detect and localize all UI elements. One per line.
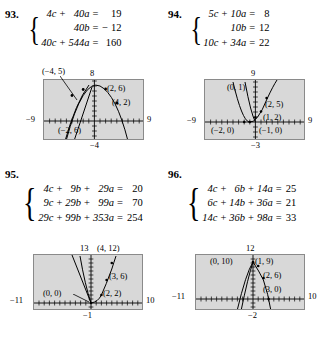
graph-96-point-label-3: (3, 0) [263,284,281,294]
equals-sign: = [115,196,125,210]
graph-93-right-label: 9 [147,114,151,124]
term-3: 99a [92,196,115,210]
graph-93-top-label: 8 [90,68,94,78]
operator-1: + [54,196,64,210]
problem-93-system: { 4c + 40a = 19 40b = − 12 40c + 544a = [26,7,122,50]
right-side: 160 [100,36,122,50]
right-side: 70 [125,196,144,210]
term-3: 98a [256,211,274,225]
term-3: 14a [256,182,274,196]
term-1: 9c [37,196,54,210]
operator-1: + [54,211,64,225]
equation-row: 9c + 29b + 99a = 70 [37,196,143,210]
term-1 [202,21,219,35]
graph-93-point-label-2: (4, 2) [112,97,130,107]
equation-row: 4c + 40a = 19 [40,7,122,21]
left-brace: { [23,182,36,225]
graph-95-point-label-1: (3, 6) [109,271,127,281]
term-3: 353a [92,211,115,225]
operator-2: + [246,196,256,210]
graph-94-point-label-4: (−1, 0) [259,125,282,135]
problem-94-system: { 5c + 10a = 8 10b = 12 10c + 34a = 22 [188,7,271,50]
term-1: 6c [201,196,218,210]
operator-2: + [246,211,256,225]
graph-95-point-label-0: (4, 12) [97,243,120,253]
graph-94-point-label-1: (2, 5) [265,99,283,109]
graph-96-top-label: 12 [246,243,255,253]
graph-94-point-label-2: (1, 2) [263,112,281,122]
operator-2: + [246,182,256,196]
problem-95-equations: 4c + 9b + 29a = 20 9c + 29b + 99a = 70 2… [37,182,143,225]
term-2: 36b [228,211,246,225]
graph-94-right-label: 9 [308,115,312,125]
equation-row: 40b = − 12 [40,21,122,35]
right-side: 12 [257,21,271,35]
term-1: 14c [201,211,218,225]
equals-sign: = [90,7,100,21]
graph-96-right-label: 10 [308,291,317,301]
problem-96-system: { 4c + 6b + 14a = 25 6c + 14b + 36a = 21 [184,182,297,225]
operator-1: + [54,182,64,196]
right-side: 20 [125,182,144,196]
right-side: 254 [125,211,144,225]
problem-94-number: 94. [168,8,182,20]
graph-93-bottom-label: −4 [90,140,99,150]
right-side: 33 [284,211,298,225]
problem-95-number: 95. [5,168,19,180]
equals-sign: = [115,182,125,196]
right-side: − 12 [100,21,122,35]
term-1: 10c [202,36,219,50]
graph-94-top-label: 9 [251,68,255,78]
graph-93-point-label-1: (2, 6) [107,83,125,93]
operator-2: + [82,182,92,196]
operator-1: + [220,7,230,21]
equation-row: 4c + 9b + 29a = 20 [37,182,143,196]
term-2: 14b [228,196,246,210]
term-2: 34a [229,36,247,50]
right-side: 22 [257,36,271,50]
term-3: 36a [256,196,274,210]
term-1: 40c [40,36,57,50]
equation-row: 10c + 34a = 22 [202,36,270,50]
operator-1 [220,21,230,35]
term-1: 5c [202,7,219,21]
equals-sign: = [274,211,284,225]
term-1: 29c [37,211,54,225]
problem-93-equations: 4c + 40a = 19 40b = − 12 40c + 544a = 16… [40,7,122,50]
term-2: 29b [64,196,82,210]
term-1: 4c [201,182,218,196]
graph-95-bottom-label: −1 [83,310,92,320]
graph-94-point-label-3: (−2, 0) [211,125,234,135]
graph-96-point-label-0: (0, 10) [210,256,233,266]
equation-row: 10b = 12 [202,21,270,35]
equals-sign: = [247,7,257,21]
left-brace: { [187,182,200,225]
term-2: 544a [67,36,90,50]
equation-row: 29c + 99b + 353a = 254 [37,211,143,225]
term-2: 10a [229,7,247,21]
operator-1: + [220,36,230,50]
graph-94-bottom-label: −3 [251,140,260,150]
operator-2: + [82,196,92,210]
right-side: 25 [284,182,298,196]
equation-row: 14c + 36b + 98a = 33 [201,211,297,225]
equals-sign: = [247,36,257,50]
equation-row: 40c + 544a = 160 [40,36,122,50]
term-2: 10b [229,21,247,35]
term-2: 40b [67,21,90,35]
left-brace: { [190,7,201,50]
operator-1: + [58,7,68,21]
operator-1: + [58,36,68,50]
equals-sign: = [90,36,100,50]
equals-sign: = [247,21,257,35]
operator-1: + [218,196,228,210]
graph-93-left-label: −9 [26,114,35,124]
graph-95-right-label: 10 [146,295,155,305]
equation-row: 4c + 6b + 14a = 25 [201,182,297,196]
graph-93-point-label-0: (−4, 5) [42,66,65,76]
operator-1: + [218,182,228,196]
term-1: 4c [40,7,57,21]
graph-95-point-label-2: (2, 2) [103,288,121,298]
problem-96-number: 96. [168,168,182,180]
graph-95-leader-3 [73,294,93,304]
